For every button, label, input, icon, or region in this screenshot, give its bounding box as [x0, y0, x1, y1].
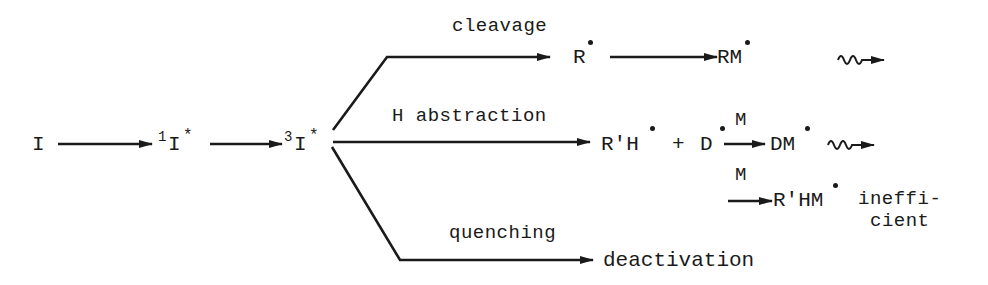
- wavy-arrow-rm: [838, 56, 884, 64]
- wavy-arrow-dm: [828, 141, 874, 149]
- node-radical-d: D: [700, 134, 713, 155]
- node-radical-rph: R'H: [601, 134, 639, 155]
- node-radical-rm: RM: [717, 47, 742, 68]
- node-radical-r: R: [573, 47, 586, 68]
- annotation-inefficient-1: ineffi-: [858, 190, 941, 209]
- radical-dot: [720, 126, 725, 131]
- plus-sign: +: [672, 134, 685, 155]
- label-quenching: quenching: [449, 224, 556, 243]
- label-monomer-bottom: M: [735, 166, 747, 185]
- node-radical-dm: DM: [770, 134, 795, 155]
- radical-dot: [745, 40, 750, 45]
- radical-dot: [805, 126, 810, 131]
- radical-dot: [650, 126, 655, 131]
- node-singlet: I: [168, 134, 181, 155]
- node-radical-rphm: R'HM: [773, 190, 823, 211]
- radical-dot: [833, 183, 838, 188]
- radical-dot: [588, 40, 593, 45]
- triplet-superscript: 3: [284, 130, 292, 144]
- excited-state-mark: *: [183, 128, 193, 144]
- node-deactivation: deactivation: [603, 250, 754, 271]
- singlet-superscript: 1: [158, 130, 166, 144]
- label-h-abstraction: H abstraction: [392, 107, 547, 126]
- node-initiator: I: [32, 134, 45, 155]
- node-triplet: I: [294, 134, 307, 155]
- annotation-inefficient-2: cient: [870, 212, 930, 231]
- label-cleavage: cleavage: [452, 17, 547, 36]
- excited-state-mark: *: [309, 128, 319, 144]
- label-monomer-top: M: [735, 111, 747, 130]
